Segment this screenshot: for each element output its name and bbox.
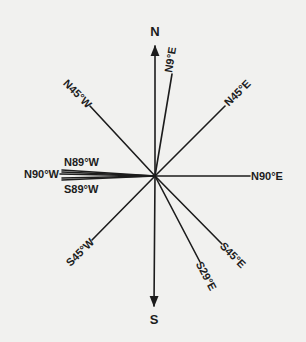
ray-n45w — [90, 106, 155, 176]
label-n89w: N89°W — [64, 156, 100, 168]
ray-s45e — [155, 176, 222, 244]
label-south: S — [150, 312, 159, 327]
label-n90e: N90°E — [251, 170, 283, 182]
label-s29e: S29°E — [194, 259, 219, 292]
label-s45w: S45°W — [63, 235, 96, 268]
compass-bearing-diagram: N S N9°E N45°E N90°E S45°E S29°E S45°W S… — [0, 0, 306, 342]
label-n45e: N45°E — [222, 77, 253, 108]
south-arrow — [154, 176, 155, 306]
label-n9e: N9°E — [162, 46, 178, 73]
ray-s29e — [155, 176, 200, 262]
label-north: N — [150, 24, 159, 39]
ray-s45w — [92, 176, 155, 240]
label-s45e: S45°E — [218, 240, 249, 271]
label-n90w: N90°W — [24, 168, 60, 180]
label-s89w: S89°W — [64, 183, 99, 195]
label-n45w: N45°W — [61, 77, 95, 111]
